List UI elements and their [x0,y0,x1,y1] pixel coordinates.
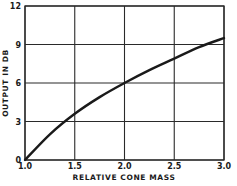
x-tick-label: 2.5 [167,162,182,171]
x-axis-label: RELATIVE CONE MASS [73,173,176,182]
y-axis-label: OUTPUT IN DB [1,49,10,117]
y-axis-ticks: 036912 [10,2,22,165]
y-tick-label: 12 [10,2,21,11]
y-tick-label: 3 [15,118,21,127]
y-tick-label: 9 [15,41,21,50]
chart: 036912 1.01.52.02.53.0 RELATIVE CONE MAS… [0,0,237,186]
x-tick-label: 1.5 [68,162,83,171]
x-tick-label: 1.0 [18,162,33,171]
x-tick-label: 2.0 [117,162,132,171]
y-tick-label: 6 [15,79,21,88]
x-axis-ticks: 1.01.52.02.53.0 [18,162,232,171]
x-tick-label: 3.0 [217,162,232,171]
